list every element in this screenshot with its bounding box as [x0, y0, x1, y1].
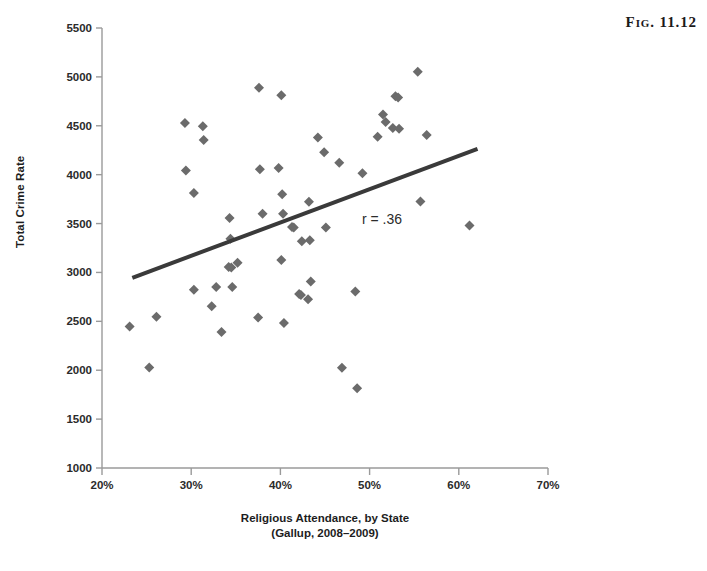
scatter-point — [217, 327, 227, 337]
y-tick-label: 1000 — [40, 462, 92, 474]
scatter-chart: 1000150020002500300035004000450050005500… — [0, 0, 600, 571]
x-tick-label: 30% — [180, 479, 203, 491]
scatter-point — [151, 312, 161, 322]
scatter-point — [189, 188, 199, 198]
figure-caption: Fig. 11.12 — [626, 14, 697, 31]
y-tick-label: 2000 — [40, 364, 92, 376]
scatter-points — [125, 67, 475, 394]
y-tick-label: 3500 — [40, 218, 92, 230]
scatter-point — [227, 282, 237, 292]
scatter-point — [276, 255, 286, 265]
y-tick-label: 5500 — [40, 22, 92, 34]
x-tick-label: 20% — [90, 479, 113, 491]
scatter-point — [321, 222, 331, 232]
scatter-point — [144, 363, 154, 373]
scatter-point — [306, 276, 316, 286]
x-axis-title: Religious Attendance, by State (Gallup, … — [102, 511, 548, 541]
scatter-point — [415, 197, 425, 207]
y-axis-title: Total Crime Rate — [14, 156, 26, 248]
y-tick-label: 3000 — [40, 266, 92, 278]
y-tick-label: 4000 — [40, 169, 92, 181]
scatter-point — [313, 132, 323, 142]
x-axis-title-line1: Religious Attendance, by State — [102, 511, 548, 526]
y-tick-label: 4500 — [40, 120, 92, 132]
scatter-point — [413, 67, 423, 77]
scatter-point — [274, 163, 284, 173]
scatter-point — [279, 318, 289, 328]
scatter-point — [254, 83, 264, 93]
scatter-point — [181, 165, 191, 175]
scatter-point — [276, 90, 286, 100]
y-tick-label: 1500 — [40, 413, 92, 425]
scatter-point — [394, 124, 404, 134]
scatter-point — [352, 383, 362, 393]
figure-root: Fig. 11.12 10001500200025003000350040004… — [0, 0, 707, 571]
scatter-point — [373, 132, 383, 142]
axis-lines — [102, 28, 548, 468]
scatter-point — [207, 301, 217, 311]
scatter-point — [465, 220, 475, 230]
scatter-point — [305, 235, 315, 245]
scatter-point — [255, 164, 265, 174]
scatter-point — [422, 130, 432, 140]
x-tick-label: 50% — [358, 479, 381, 491]
y-tick-label: 2500 — [40, 315, 92, 327]
scatter-point — [297, 236, 307, 246]
scatter-point — [337, 363, 347, 373]
scatter-point — [180, 118, 190, 128]
scatter-point — [253, 313, 263, 323]
x-tick-label: 60% — [447, 479, 470, 491]
scatter-point — [258, 209, 268, 219]
x-tick-label: 70% — [536, 479, 559, 491]
scatter-point — [198, 121, 208, 131]
scatter-point — [225, 213, 235, 223]
scatter-point — [278, 209, 288, 219]
scatter-point — [211, 282, 221, 292]
y-axis-ticks — [96, 28, 102, 468]
scatter-point — [189, 285, 199, 295]
scatter-point — [319, 147, 329, 157]
scatter-point — [350, 287, 360, 297]
x-axis-title-line2: (Gallup, 2008–2009) — [102, 526, 548, 541]
y-tick-label: 5000 — [40, 71, 92, 83]
correlation-annotation: r = .36 — [362, 211, 402, 227]
x-axis-ticks — [102, 468, 548, 475]
scatter-point — [199, 135, 209, 145]
x-tick-label: 40% — [269, 479, 292, 491]
scatter-point — [334, 158, 344, 168]
scatter-point — [304, 197, 314, 207]
scatter-point — [277, 189, 287, 199]
scatter-point — [125, 322, 135, 332]
scatter-point — [357, 168, 367, 178]
